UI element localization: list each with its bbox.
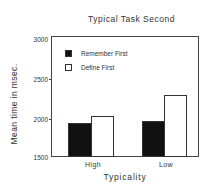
legend-label: Remember First [81, 50, 128, 57]
bar-low-remember-first [142, 121, 165, 157]
legend-item-define-first: Define First [65, 60, 128, 74]
y-tick-label: 2000 [24, 116, 48, 123]
legend: Remember First Define First [65, 46, 128, 74]
y-tick-mark [49, 79, 52, 80]
bar-low-define-first [164, 95, 187, 157]
black-square-icon [65, 50, 72, 57]
x-tick-label-high: High [85, 161, 101, 168]
legend-label: Define First [81, 64, 114, 71]
y-tick-mark [49, 119, 52, 120]
bar-high-remember-first [68, 123, 92, 157]
y-tick-label: 1500 [24, 154, 48, 161]
x-tick-label-low: Low [159, 161, 173, 168]
y-tick-label: 3000 [24, 36, 48, 43]
white-square-icon [65, 64, 72, 71]
x-axis-label: Typicality [51, 172, 199, 182]
legend-item-remember-first: Remember First [65, 46, 128, 60]
y-tick-label: 2500 [24, 76, 48, 83]
y-axis-label: Mean time in msec. [9, 64, 19, 145]
bar-high-define-first [91, 116, 114, 157]
chart-title: Typical Task Second [50, 14, 213, 24]
